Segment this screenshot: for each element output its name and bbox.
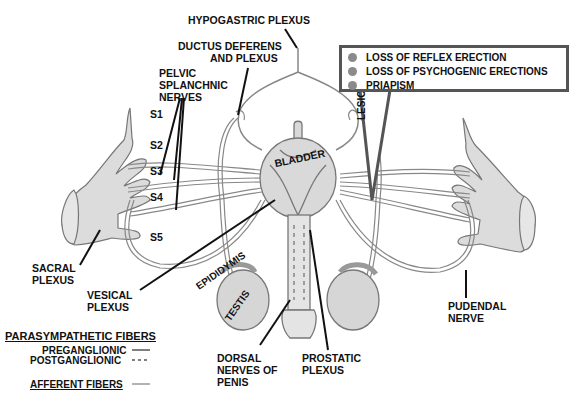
bullet-icon bbox=[348, 67, 357, 76]
label-s1: S1 bbox=[150, 108, 163, 120]
label-prostatic: PROSTATIC bbox=[302, 352, 361, 364]
label-splanchnic: SPLANCHNIC bbox=[159, 79, 228, 91]
lesion-effect-item: LOSS OF REFLEX ERECTION bbox=[348, 50, 566, 64]
legend-swatches bbox=[132, 350, 150, 384]
bullet-icon bbox=[348, 81, 357, 90]
lesion-effect-item: PRIAPISM bbox=[348, 78, 566, 92]
sacral-plexus-left bbox=[62, 108, 150, 245]
label-hypogastric-plexus: HYPOGASTRIC PLEXUS bbox=[188, 14, 310, 26]
legend-afferent-title: AFFERENT FIBERS bbox=[30, 379, 123, 391]
sacral-plexus-right bbox=[452, 118, 535, 252]
label-sacral-plexus: PLEXUS bbox=[32, 274, 74, 286]
legend-parasympathetic-title: PARASYMPATHETIC FIBERS bbox=[5, 330, 156, 342]
lesion-effects-box: LOSS OF REFLEX ERECTION LOSS OF PSYCHOGE… bbox=[339, 45, 569, 92]
label-pudendal-nerve: NERVE bbox=[448, 312, 484, 324]
label-s3: S3 bbox=[150, 165, 163, 177]
label-sacral: SACRAL bbox=[32, 262, 76, 274]
label-ductus-deferens: DUCTUS DEFERENS bbox=[178, 40, 282, 52]
label-dorsal: DORSAL bbox=[217, 352, 261, 364]
label-nerves-of: NERVES OF bbox=[217, 364, 278, 376]
label-s5: S5 bbox=[150, 231, 163, 243]
label-ductus-deferens-2: AND PLEXUS bbox=[210, 52, 278, 64]
bullet-icon bbox=[348, 53, 357, 62]
lesion-effect-item: LOSS OF PSYCHOGENIC ERECTIONS bbox=[348, 64, 566, 78]
label-s2: S2 bbox=[150, 139, 163, 151]
label-pudendal: PUDENDAL bbox=[448, 300, 506, 312]
legend-postganglionic: POSTGANGLIONIC bbox=[30, 355, 121, 367]
label-penis: PENIS bbox=[217, 376, 249, 388]
label-s4: S4 bbox=[150, 191, 163, 203]
label-nerves: NERVES bbox=[159, 91, 202, 103]
label-pelvic: PELVIC bbox=[159, 67, 196, 79]
label-prostatic-plexus: PLEXUS bbox=[302, 364, 344, 376]
label-vesical: VESICAL bbox=[87, 289, 133, 301]
label-vesical-plexus: PLEXUS bbox=[87, 301, 129, 313]
